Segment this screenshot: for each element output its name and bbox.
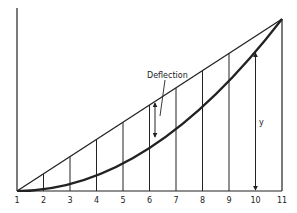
ordinate-lines xyxy=(44,53,230,191)
svg-text:11: 11 xyxy=(277,196,287,205)
svg-text:1: 1 xyxy=(14,196,19,205)
svg-text:5: 5 xyxy=(120,196,125,205)
svg-text:8: 8 xyxy=(200,196,205,205)
y-label: y xyxy=(259,118,264,127)
svg-text:4: 4 xyxy=(94,196,99,205)
deflection-diagram: Deflection y 1 2 3 4 5 6 7 8 9 10 11 xyxy=(0,0,297,213)
svg-text:3: 3 xyxy=(67,196,72,205)
svg-text:9: 9 xyxy=(226,196,231,205)
deflection-label: Deflection xyxy=(147,71,188,80)
svg-text:7: 7 xyxy=(173,196,178,205)
svg-text:10: 10 xyxy=(250,196,260,205)
svg-text:6: 6 xyxy=(147,196,152,205)
svg-text:2: 2 xyxy=(41,196,46,205)
x-tick-labels: 1 2 3 4 5 6 7 8 9 10 11 xyxy=(14,196,287,205)
